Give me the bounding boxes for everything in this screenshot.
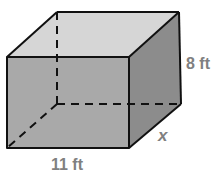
height-label: 8 ft xyxy=(186,55,211,72)
length-label: 11 ft xyxy=(51,156,84,173)
depth-label: x xyxy=(157,126,169,145)
rectangular-prism-diagram: 8 ft x 11 ft xyxy=(0,0,223,187)
front-face xyxy=(7,57,129,148)
